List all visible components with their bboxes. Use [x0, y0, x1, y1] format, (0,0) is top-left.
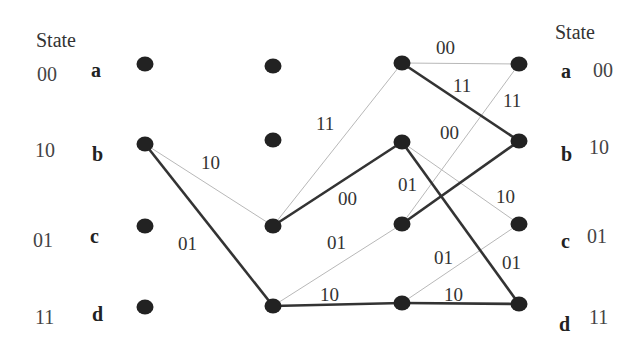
trellis-node-1-c [265, 219, 282, 234]
edge-label: 01 [327, 232, 346, 254]
left-state-code-a: 00 [37, 63, 57, 86]
trellis-node-0-d [137, 300, 154, 315]
trellis-node-0-a [137, 57, 154, 72]
trellis-node-3-c [511, 217, 528, 232]
trellis-node-1-b [265, 133, 282, 148]
edge-label: 10 [496, 186, 515, 208]
right-state-letter-b: b [561, 143, 572, 166]
trellis-node-1-d [265, 299, 282, 314]
trellis-node-3-d [511, 297, 528, 312]
trellis-node-1-a [265, 59, 282, 74]
trellis-edge-2a-3a [402, 63, 519, 64]
trellis-edge-2b-3d [402, 142, 519, 304]
edge-label: 10 [201, 152, 220, 174]
right-state-code-b: 10 [589, 136, 609, 159]
edge-label: 00 [440, 122, 459, 144]
trellis-node-3-b [511, 134, 528, 149]
right-state-letter-c: c [561, 230, 570, 253]
left-state-letter-a: a [91, 59, 101, 82]
trellis-node-0-b [137, 137, 154, 152]
left-state-letter-c: c [90, 225, 99, 248]
trellis-node-2-d [394, 296, 411, 311]
left-state-code-d: 11 [35, 306, 54, 329]
left-state-code-c: 01 [33, 229, 53, 252]
edges-layer [145, 63, 519, 306]
edge-label: 01 [398, 174, 417, 196]
trellis-node-0-c [137, 219, 154, 234]
right-state-code-a: 00 [593, 59, 613, 82]
edge-label: 11 [503, 90, 521, 112]
right-state-letter-d: d [559, 313, 570, 336]
trellis-node-2-a [394, 56, 411, 71]
right-state-letter-a: a [561, 60, 571, 83]
trellis-node-2-c [394, 217, 411, 232]
trellis-edge-1c-2b [273, 142, 402, 226]
right-state-code-d: 11 [589, 306, 608, 329]
edge-label: 00 [436, 37, 455, 59]
edge-label: 01 [502, 252, 521, 274]
left-state-title: State [36, 29, 76, 52]
left-state-code-b: 10 [35, 139, 55, 162]
edge-label: 11 [316, 113, 334, 135]
edge-label: 10 [444, 284, 463, 306]
edge-label: 10 [320, 284, 339, 306]
trellis-node-3-a [511, 57, 528, 72]
right-state-code-c: 01 [587, 225, 607, 248]
left-state-letter-b: b [92, 143, 103, 166]
trellis-node-2-b [394, 135, 411, 150]
edge-label: 01 [434, 247, 453, 269]
edge-label: 01 [178, 233, 197, 255]
edge-label: 00 [338, 188, 357, 210]
right-state-title: State [555, 21, 595, 44]
edge-label: 11 [453, 75, 471, 97]
left-state-letter-d: d [92, 303, 103, 326]
